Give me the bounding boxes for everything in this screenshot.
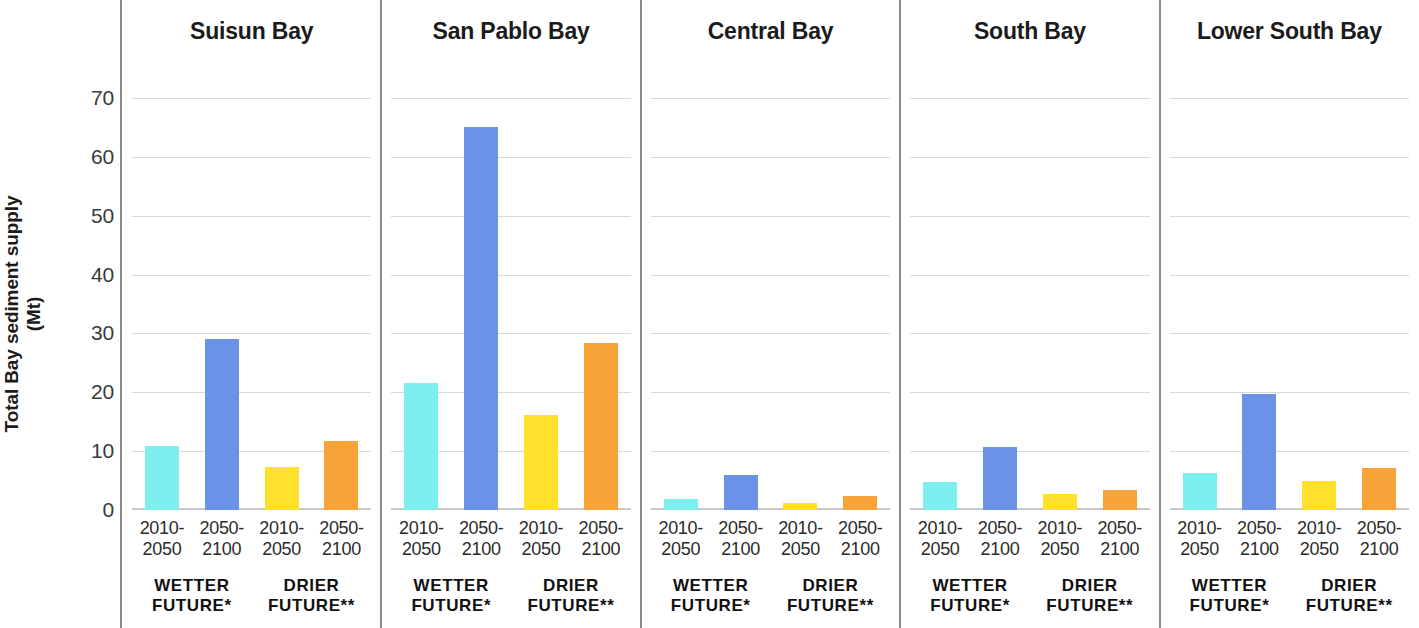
x-label-2: 2050-2100 [451, 518, 511, 560]
y-axis-label: Total Bay sediment supply (Mt) [0, 0, 46, 628]
x-label-line2: 2050 [651, 539, 711, 560]
x-label-1: 2010-2050 [910, 518, 970, 560]
x-axis-labels: 2010-20502050-21002010-20502050-2100 [910, 518, 1149, 560]
x-label-line2: 2100 [1349, 539, 1409, 560]
bar-2[interactable] [1242, 394, 1276, 510]
x-label-line1: 2010- [1038, 518, 1083, 538]
scenario-line1: WETTER [673, 576, 748, 595]
scenario-label-wetter: WETTERFUTURE* [1170, 576, 1290, 615]
bar-2[interactable] [464, 127, 498, 510]
bar-2[interactable] [983, 447, 1017, 510]
x-label-line1: 2050- [978, 518, 1023, 538]
bar-2[interactable] [205, 339, 239, 510]
scenario-label-drier: DRIERFUTURE** [771, 576, 891, 615]
y-tick-20: 20 [70, 380, 114, 404]
bar-1[interactable] [1183, 473, 1217, 510]
panel-title: Suisun Bay [122, 18, 381, 45]
x-label-line2: 2100 [192, 539, 252, 560]
x-label-line1: 2010- [519, 518, 564, 538]
x-label-line1: 2050- [459, 518, 504, 538]
scenario-label-wetter: WETTERFUTURE* [651, 576, 771, 615]
y-axis-ticks: 706050403020100 [46, 0, 114, 628]
bar-2[interactable] [724, 475, 758, 510]
bar-4[interactable] [1103, 490, 1137, 510]
x-axis-labels: 2010-20502050-21002010-20502050-2100 [391, 518, 630, 560]
bar-4[interactable] [324, 441, 358, 510]
panel-container: Suisun Bay2010-20502050-21002010-2050205… [122, 0, 1419, 628]
x-label-3: 2010-2050 [252, 518, 312, 560]
x-label-line2: 2050 [1170, 539, 1230, 560]
x-label-line2: 2050 [511, 539, 571, 560]
x-axis-labels: 2010-20502050-21002010-20502050-2100 [132, 518, 371, 560]
scenario-line2: FUTURE* [132, 596, 252, 616]
scenario-line1: DRIER [1062, 576, 1118, 595]
y-tick-50: 50 [70, 204, 114, 228]
x-axis-labels: 2010-20502050-21002010-20502050-2100 [1170, 518, 1409, 560]
x-label-line2: 2050 [1289, 539, 1349, 560]
bar-1[interactable] [404, 383, 438, 510]
x-label-line1: 2050- [718, 518, 763, 538]
scenario-labels: WETTERFUTURE*DRIERFUTURE** [910, 576, 1149, 615]
panel-divider [899, 0, 901, 628]
x-label-line2: 2050 [132, 539, 192, 560]
x-label-3: 2010-2050 [1030, 518, 1090, 560]
bar-1[interactable] [145, 446, 179, 510]
scenario-line1: WETTER [154, 576, 229, 595]
y-tick-0: 0 [70, 498, 114, 522]
x-label-line2: 2050 [391, 539, 451, 560]
bar-group [910, 98, 1149, 510]
x-label-line1: 2050- [199, 518, 244, 538]
x-axis-labels: 2010-20502050-21002010-20502050-2100 [651, 518, 890, 560]
y-axis-label-line1: Total Bay sediment supply [1, 196, 22, 433]
x-label-line2: 2100 [571, 539, 631, 560]
x-label-1: 2010-2050 [1170, 518, 1230, 560]
scenario-line2: FUTURE* [910, 596, 1030, 616]
scenario-line1: WETTER [414, 576, 489, 595]
bar-group [132, 98, 371, 510]
x-label-4: 2050-2100 [1090, 518, 1150, 560]
x-label-line1: 2010- [1177, 518, 1222, 538]
bar-3[interactable] [1043, 494, 1077, 510]
y-tick-30: 30 [70, 321, 114, 345]
plot-area [910, 98, 1149, 510]
panel-title: South Bay [900, 18, 1159, 45]
bar-1[interactable] [923, 482, 957, 510]
bar-3[interactable] [783, 503, 817, 510]
x-label-line1: 2010- [140, 518, 185, 538]
x-label-line1: 2010- [399, 518, 444, 538]
bar-1[interactable] [664, 499, 698, 510]
scenario-label-wetter: WETTERFUTURE* [910, 576, 1030, 615]
panel-divider [380, 0, 382, 628]
x-label-line2: 2100 [312, 539, 372, 560]
scenario-line1: WETTER [932, 576, 1007, 595]
bar-3[interactable] [1302, 481, 1336, 510]
scenario-line2: FUTURE** [1289, 596, 1409, 616]
x-label-4: 2050-2100 [830, 518, 890, 560]
scenario-line1: DRIER [543, 576, 599, 595]
x-label-line2: 2100 [451, 539, 511, 560]
x-label-4: 2050-2100 [312, 518, 372, 560]
bar-3[interactable] [524, 415, 558, 510]
x-label-line2: 2100 [711, 539, 771, 560]
x-label-3: 2010-2050 [511, 518, 571, 560]
x-label-line2: 2050 [910, 539, 970, 560]
scenario-line2: FUTURE** [1030, 596, 1150, 616]
x-label-1: 2010-2050 [132, 518, 192, 560]
plot-area [132, 98, 371, 510]
scenario-label-drier: DRIERFUTURE** [252, 576, 372, 615]
bar-4[interactable] [584, 343, 618, 510]
bar-3[interactable] [265, 467, 299, 510]
plot-area [651, 98, 890, 510]
x-label-3: 2010-2050 [1289, 518, 1349, 560]
x-label-2: 2050-2100 [711, 518, 771, 560]
x-label-4: 2050-2100 [1349, 518, 1409, 560]
x-label-line2: 2100 [1229, 539, 1289, 560]
y-tick-60: 60 [70, 145, 114, 169]
plot-area [391, 98, 630, 510]
bar-4[interactable] [843, 496, 877, 510]
bar-4[interactable] [1362, 468, 1396, 510]
scenario-line2: FUTURE** [252, 596, 372, 616]
x-label-line2: 2050 [771, 539, 831, 560]
scenario-label-drier: DRIERFUTURE** [1030, 576, 1150, 615]
bar-group [391, 98, 630, 510]
